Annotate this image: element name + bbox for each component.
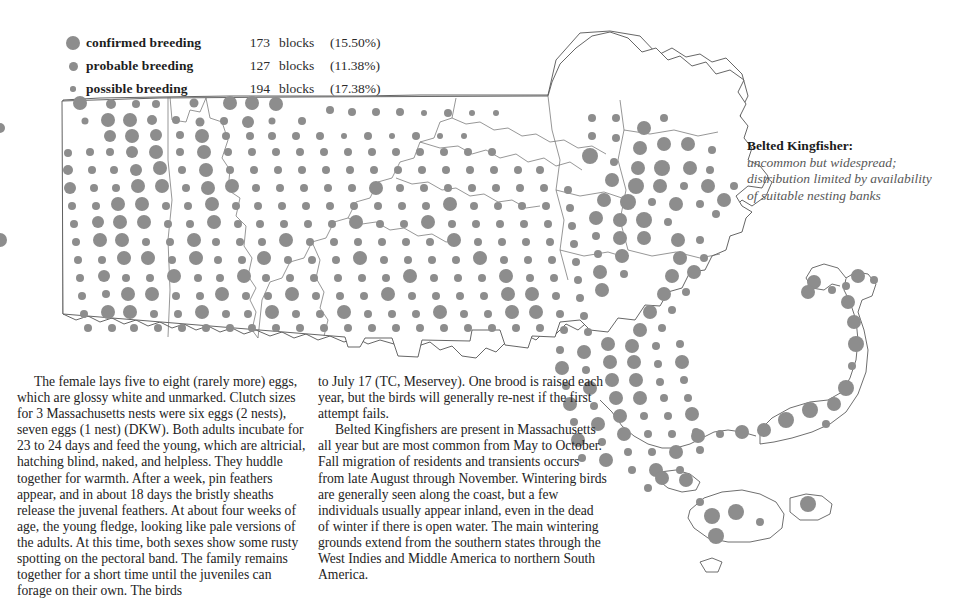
legend-symbol-possible (60, 79, 86, 99)
legend-symbol-probable (60, 56, 86, 76)
large-grey-dot-icon (66, 36, 80, 50)
species-name: Belted Kingfisher: (747, 138, 932, 155)
breeding-legend: confirmed breeding 173 blocks (15.50%) p… (60, 33, 400, 99)
buzzards-bay-coast (600, 400, 756, 448)
legend-label-confirmed: confirmed breeding (86, 35, 236, 51)
legend-count-confirmed: 173 (236, 35, 272, 51)
text-column-2: to July 17 (TC, Meservey). One brood is … (318, 374, 608, 583)
cape-and-islands (600, 264, 876, 572)
legend-percent-probable: (11.38%) (330, 58, 400, 74)
provincetown-hook (806, 264, 846, 290)
small-grey-dot-icon (70, 86, 76, 92)
nantucket-outline (790, 494, 832, 520)
marthas-vineyard-outline (688, 490, 784, 542)
cape-cod-outline (760, 272, 876, 444)
county-boundaries (168, 96, 720, 338)
legend-count-possible: 194 (236, 81, 272, 97)
legend-unit-possible: blocks (272, 81, 330, 97)
legend-unit-probable: blocks (272, 58, 330, 74)
atlas-page: confirmed breeding 173 blocks (15.50%) p… (0, 0, 955, 604)
legend-symbol-confirmed (60, 33, 86, 53)
legend-percent-possible: (17.38%) (330, 81, 400, 97)
legend-count-probable: 127 (236, 58, 272, 74)
legend-unit-confirmed: blocks (272, 35, 330, 51)
medium-grey-dot-icon (69, 62, 78, 71)
small-island (700, 558, 722, 572)
legend-percent-confirmed: (15.50%) (330, 35, 400, 51)
paragraph: The female lays five to eight (rarely mo… (17, 374, 307, 599)
paragraph: to July 17 (TC, Meservey). One brood is … (318, 374, 608, 422)
paragraph: Belted Kingfishers are present in Massac… (318, 422, 608, 583)
elizabeth-islands-outline (658, 470, 700, 492)
species-description: uncommon but widespread; distribution li… (747, 155, 932, 205)
text-column-1: The female lays five to eight (rarely mo… (17, 374, 307, 599)
legend-label-possible: possible breeding (86, 81, 236, 97)
legend-label-probable: probable breeding (86, 58, 236, 74)
species-caption: Belted Kingfisher: uncommon but widespre… (747, 138, 932, 205)
